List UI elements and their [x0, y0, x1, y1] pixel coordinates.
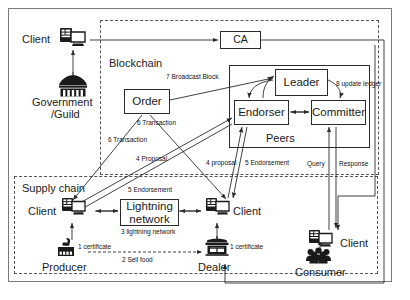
- edge-label-certificate-producer: 1 certificate: [78, 243, 111, 250]
- edge-label-proposal-a: 4 Proposal: [136, 155, 167, 162]
- edge-endorser-to-client-producer-endorsement: [80, 124, 232, 210]
- actor-label-consumer: Consumer: [295, 266, 346, 278]
- lightning-line-2: network: [129, 213, 169, 225]
- node-endorser[interactable]: Endorser: [234, 100, 289, 125]
- edge-label-broadcast-block: 7 Broadcast Block: [166, 73, 218, 80]
- actor-label-client-consumer: Client: [340, 237, 368, 249]
- actor-label-producer: Producer: [42, 261, 87, 273]
- client-computer-icon: [206, 198, 229, 215]
- edge-label-certificate-dealer: 1 certificate: [230, 243, 263, 250]
- actor-label-client-producer: Client: [28, 205, 56, 217]
- factory-icon: [58, 238, 74, 256]
- diagram-canvas: Blockchain Supply chain Peers: [0, 0, 410, 300]
- lightning-line-1: Lightning: [126, 200, 173, 212]
- node-committer[interactable]: Committer: [311, 100, 366, 125]
- edge-label-update-ledger: 8 update ledger: [336, 80, 381, 87]
- edge-label-endorsement-5: 5 Endorsement: [245, 159, 289, 166]
- edges-layer: [0, 0, 410, 300]
- actor-label-government: Government: [32, 96, 93, 108]
- edge-label-lightning-network-3: 3 lightning network: [121, 228, 175, 235]
- client-computer-icon: [62, 198, 85, 215]
- client-computer-icon: [309, 230, 332, 247]
- actor-label-client-top: Client: [22, 33, 50, 45]
- node-ca[interactable]: CA: [220, 31, 261, 49]
- node-leader[interactable]: Leader: [275, 69, 328, 96]
- people-group-icon: [306, 247, 331, 263]
- actor-label-client-dealer: Client: [233, 205, 261, 217]
- client-computer-icon: [60, 28, 85, 46]
- edge-label-query: Query: [307, 160, 325, 167]
- node-order[interactable]: Order: [124, 89, 170, 114]
- edge-ca-to-consumer-client: [338, 45, 375, 230]
- actor-label-dealer: Dealer: [198, 261, 230, 273]
- shop-icon: [206, 236, 229, 256]
- edge-label-sell-food: 2 Sell food: [122, 256, 153, 263]
- edge-label-response: Response: [339, 160, 368, 167]
- actor-label-guild: /Guild: [51, 108, 80, 120]
- edge-order-to-leader-broadcast: [170, 78, 273, 100]
- edge-label-transaction-b: 6 Transaction: [108, 136, 147, 143]
- edge-label-endorsement-3: 5 Endorsement: [128, 186, 172, 193]
- edge-label-proposal-b: 4 proposal: [206, 159, 236, 166]
- government-building-icon: [59, 72, 87, 97]
- node-lightning-network[interactable]: Lightning network: [120, 199, 179, 226]
- edge-label-transaction-a: 6 Transaction: [137, 119, 176, 126]
